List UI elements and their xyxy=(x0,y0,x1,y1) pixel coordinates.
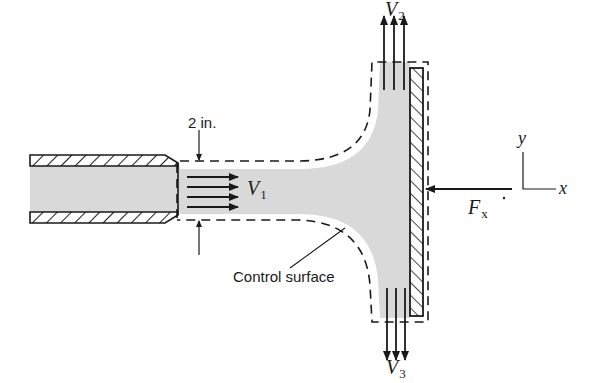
control-surface-label: Control surface xyxy=(233,268,335,285)
fx-symbol: F xyxy=(468,196,480,218)
axis-y-label: y xyxy=(518,128,526,149)
axis-x-label: x xyxy=(559,178,567,199)
v2-subscript: 2 xyxy=(398,8,405,23)
dot xyxy=(503,197,505,199)
v3-subscript: 3 xyxy=(399,366,406,381)
v2-label: V2 xyxy=(385,0,405,21)
v3-label: V3 xyxy=(386,356,406,379)
plate xyxy=(410,68,423,316)
fx-subscript: x xyxy=(481,206,488,221)
v2-symbol: V xyxy=(385,0,397,20)
diameter-label: 2 in. xyxy=(188,114,216,131)
fx-label: Fx xyxy=(468,196,488,219)
axes xyxy=(523,152,556,189)
diagram-canvas: 2 in. V1 V2 V3 Fx Control surface y x xyxy=(0,0,596,383)
v1-subscript: 1 xyxy=(260,187,267,202)
v3-symbol: V xyxy=(386,356,398,378)
control-surface-leader xyxy=(290,228,345,268)
diagram-svg xyxy=(0,0,596,383)
v1-symbol: V xyxy=(247,177,259,199)
fluid-region xyxy=(30,62,410,318)
v1-label: V1 xyxy=(247,177,267,200)
